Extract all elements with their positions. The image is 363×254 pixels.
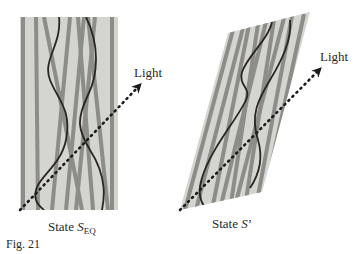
figure-caption: Fig. 21 bbox=[6, 238, 40, 250]
right-state-prime: ’ bbox=[248, 216, 252, 231]
left-state-prefix: State bbox=[48, 219, 77, 234]
left-light-label: Light bbox=[134, 66, 162, 79]
left-state-label: State SEQ bbox=[48, 220, 96, 233]
right-state-prefix: State bbox=[212, 216, 241, 231]
figure-canvas bbox=[0, 0, 363, 254]
left-state-symbol: S bbox=[77, 219, 84, 234]
left-state-subscript: EQ bbox=[84, 226, 96, 236]
figure-21: Light Light State SEQ State S’ Fig. 21 bbox=[0, 0, 363, 254]
right-light-label: Light bbox=[320, 50, 348, 63]
right-state-label: State S’ bbox=[212, 217, 252, 230]
left-panel bbox=[20, 17, 139, 210]
right-panel bbox=[180, 12, 319, 210]
